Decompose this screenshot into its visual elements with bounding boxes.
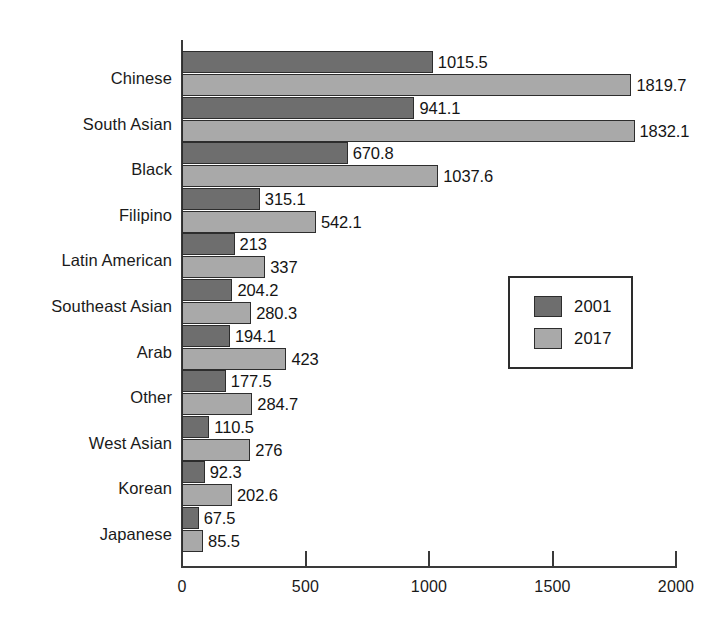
bar-value-label: 67.5 — [204, 509, 236, 528]
bar-2017 — [182, 348, 286, 370]
bar-2001 — [182, 233, 235, 255]
bar-value-label: 670.8 — [353, 144, 394, 163]
x-axis-tick — [181, 551, 183, 566]
bar-2001 — [182, 188, 260, 210]
category-label: Japanese — [2, 525, 172, 544]
legend-label-2017: 2017 — [574, 329, 612, 348]
bar-value-label: 276 — [255, 441, 282, 460]
category-label: Chinese — [2, 69, 172, 88]
bar-value-label: 204.2 — [237, 281, 278, 300]
bar-value-label: 92.3 — [210, 463, 242, 482]
legend-swatch-2017 — [534, 328, 562, 349]
bar-2017 — [182, 484, 232, 506]
bar-2017 — [182, 74, 631, 96]
bar-2017 — [182, 120, 635, 142]
bar-2017 — [182, 393, 252, 415]
bar-value-label: 1015.5 — [438, 53, 488, 72]
bar-value-label: 423 — [291, 350, 318, 369]
category-label: South Asian — [2, 115, 172, 134]
x-axis-tick-label: 1000 — [411, 578, 447, 596]
x-axis-line — [181, 566, 677, 568]
bar-value-label: 284.7 — [257, 395, 298, 414]
bar-value-label: 213 — [240, 235, 267, 254]
category-label: West Asian — [2, 434, 172, 453]
legend-swatch-2001 — [534, 296, 562, 317]
category-label: Korean — [2, 479, 172, 498]
x-axis-tick-label: 0 — [177, 578, 186, 596]
bar-2001 — [182, 507, 199, 529]
bar-value-label: 1037.6 — [443, 167, 493, 186]
bar-value-label: 337 — [270, 258, 297, 277]
category-label: Arab — [2, 343, 172, 362]
legend-entry-2017: 2017 — [534, 328, 612, 349]
bar-2001 — [182, 142, 348, 164]
bar-2001 — [182, 325, 230, 347]
bar-value-label: 280.3 — [256, 304, 297, 323]
category-label: Black — [2, 160, 172, 179]
category-label: Southeast Asian — [2, 297, 172, 316]
x-axis-tick-label: 1500 — [534, 578, 570, 596]
bar-value-label: 85.5 — [208, 532, 240, 551]
x-axis-tick-label: 2000 — [658, 578, 694, 596]
bar-2001 — [182, 97, 414, 119]
category-label: Other — [2, 388, 172, 407]
legend-entry-2001: 2001 — [534, 296, 612, 317]
bar-2017 — [182, 211, 316, 233]
bar-value-label: 941.1 — [419, 99, 460, 118]
bar-2001 — [182, 416, 209, 438]
bar-value-label: 202.6 — [237, 486, 278, 505]
bar-2001 — [182, 51, 433, 73]
legend-label-2001: 2001 — [574, 297, 612, 316]
category-label: Latin American — [2, 251, 172, 270]
bar-2001 — [182, 370, 226, 392]
bar-chart: 0500100015002000 Chinese1015.51819.7Sout… — [0, 0, 725, 640]
x-axis-tick — [428, 551, 430, 566]
bar-value-label: 110.5 — [214, 418, 254, 437]
bar-2017 — [182, 530, 203, 552]
x-axis-tick — [552, 551, 554, 566]
category-label: Filipino — [2, 206, 172, 225]
bar-value-label: 1832.1 — [640, 122, 690, 141]
x-axis-tick — [305, 551, 307, 566]
bar-2001 — [182, 461, 205, 483]
x-axis-tick — [675, 551, 677, 566]
bar-value-label: 542.1 — [321, 213, 362, 232]
chart-legend: 2001 2017 — [508, 276, 633, 369]
x-axis-tick-label: 500 — [292, 578, 319, 596]
bar-2017 — [182, 165, 438, 187]
bar-2017 — [182, 256, 265, 278]
bar-value-label: 177.5 — [231, 372, 272, 391]
bar-2001 — [182, 279, 232, 301]
bar-2017 — [182, 302, 251, 324]
bar-value-label: 1819.7 — [636, 76, 686, 95]
bar-value-label: 194.1 — [235, 327, 276, 346]
bar-value-label: 315.1 — [265, 190, 306, 209]
bar-2017 — [182, 439, 250, 461]
